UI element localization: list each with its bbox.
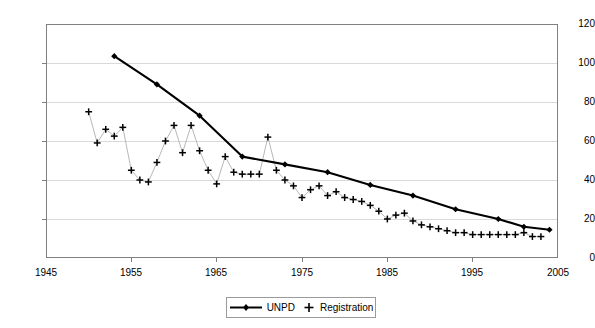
legend-label-unpd: UNPD bbox=[267, 303, 295, 313]
y-axis-tick-label: 100 bbox=[557, 58, 595, 68]
gridline-60 bbox=[47, 141, 557, 142]
line-diamond-marker-icon bbox=[229, 302, 263, 313]
gridline-100 bbox=[47, 63, 557, 64]
x-axis-tick-label: 2005 bbox=[538, 268, 578, 278]
plus-marker-icon bbox=[302, 302, 316, 313]
chart-legend: UNPD Registration bbox=[226, 297, 376, 318]
y-axis-tick-label: 0 bbox=[557, 253, 595, 263]
x-axis-tick-mark bbox=[302, 258, 303, 262]
y-axis-tick-label: 120 bbox=[557, 19, 595, 29]
x-axis-tick-label: 1995 bbox=[452, 268, 492, 278]
x-axis-tick-mark bbox=[131, 258, 132, 262]
y-axis-tick-label: 80 bbox=[557, 97, 595, 107]
x-axis-tick-mark bbox=[472, 258, 473, 262]
x-axis-tick-mark bbox=[387, 258, 388, 262]
gridline-80 bbox=[47, 102, 557, 103]
x-axis-tick-label: 1975 bbox=[282, 268, 322, 278]
plot-area bbox=[46, 24, 558, 258]
legend-entry-unpd: UNPD bbox=[229, 302, 295, 313]
x-axis-tick-label: 1945 bbox=[26, 268, 66, 278]
x-axis-tick-label: 1965 bbox=[196, 268, 236, 278]
gridline-20 bbox=[47, 219, 557, 220]
y-axis-tick-label: 40 bbox=[557, 175, 595, 185]
x-axis-tick-mark bbox=[216, 258, 217, 262]
legend-label-registration: Registration bbox=[320, 303, 373, 313]
chart-container: 120 100 80 60 40 20 0 1945 1955 1965 197… bbox=[0, 0, 595, 328]
gridline-40 bbox=[47, 180, 557, 181]
legend-entry-registration: Registration bbox=[302, 302, 373, 313]
x-axis-tick-label: 1985 bbox=[367, 268, 407, 278]
y-axis-tick-label: 20 bbox=[557, 214, 595, 224]
x-axis-tick-label: 1955 bbox=[111, 268, 151, 278]
y-axis-tick-label: 60 bbox=[557, 136, 595, 146]
